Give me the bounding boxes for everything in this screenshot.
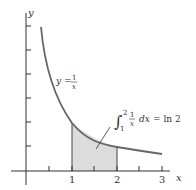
svg-text:dx: dx	[139, 114, 150, 124]
svg-text:y =: y =	[55, 76, 72, 86]
svg-text:1: 1	[130, 111, 134, 119]
svg-text:1: 1	[120, 125, 124, 133]
svg-text:x: x	[72, 83, 76, 91]
curve-one-over-x	[41, 27, 162, 154]
x-tick-label-3: 3	[159, 174, 165, 185]
curve-equation-label: y = 1 x	[55, 74, 77, 91]
integral-diagram: y x 1 2 3 y = 1 x ∫ 2 1 1 x dx = ln 2	[0, 0, 196, 190]
svg-text:= ln 2: = ln 2	[153, 114, 181, 124]
y-ticks	[26, 26, 31, 146]
svg-text:2: 2	[123, 109, 127, 117]
svg-text:1: 1	[72, 74, 76, 82]
svg-text:x: x	[130, 120, 134, 128]
x-axis-label: x	[176, 172, 182, 183]
x-tick-label-2: 2	[114, 174, 120, 185]
integral-annotation: ∫ 2 1 1 x dx = ln 2	[114, 109, 181, 133]
x-tick-label-1: 1	[69, 174, 75, 185]
y-axis-label: y	[27, 7, 34, 18]
